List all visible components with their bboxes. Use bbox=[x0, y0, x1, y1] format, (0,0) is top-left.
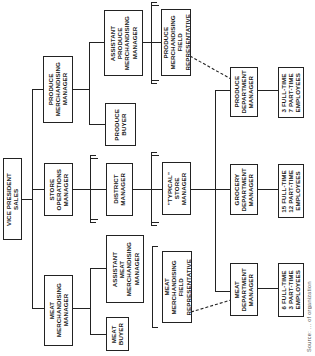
node-label: PRODUCE DEPARTMENT MANAGER bbox=[233, 70, 255, 114]
node-grocery-employees: 15 FULL-TIME 12 PART-TIME EMPLOYEES bbox=[278, 164, 304, 218]
node-meat-buyer: MEAT BUYER bbox=[106, 317, 129, 351]
node-typical-store-manager: "TYPICAL" STORE MANAGER bbox=[162, 162, 191, 215]
connector bbox=[191, 189, 230, 190]
node-meat-employees: 6 FULL-TIME 3 PART-TIME EMPLOYEES bbox=[278, 263, 304, 317]
connector bbox=[258, 288, 278, 289]
connector bbox=[89, 42, 104, 43]
node-label: 3 FULL-TIME 7 PART-TIME EMPLOYEES bbox=[280, 73, 302, 112]
connector bbox=[215, 291, 230, 292]
node-label: MEAT BUYER bbox=[110, 323, 124, 345]
connector bbox=[215, 90, 216, 292]
node-label: STORE OPERATIONS MANAGER bbox=[48, 169, 70, 210]
connector bbox=[73, 308, 90, 309]
node-label: PRODUCE BUYER bbox=[113, 109, 127, 141]
bracket bbox=[151, 152, 157, 226]
connector bbox=[90, 334, 106, 335]
connector bbox=[32, 308, 44, 309]
node-label: MEAT MERCHANDISING FIELD REPRESENTATIVE bbox=[163, 259, 192, 316]
node-produce-department-manager: PRODUCE DEPARTMENT MANAGER bbox=[230, 67, 258, 117]
node-district-manager: DISTRICT MANAGER bbox=[106, 163, 133, 216]
node-store-operations-manager: STORE OPERATIONS MANAGER bbox=[44, 163, 73, 216]
bracket bbox=[152, 246, 158, 328]
node-produce-merchandising-field-representative: PRODUCE MERCHANDISING FIELD REPRESENTATI… bbox=[161, 9, 191, 76]
connector bbox=[89, 124, 105, 125]
node-produce-merchandising-manager: PRODUCE MERCHANDISING MANAGER bbox=[43, 56, 73, 123]
node-label: PRODUCE MERCHANDISING MANAGER bbox=[47, 62, 69, 116]
node-label: ASSISTANT MEAT MERCHANDISING MANAGER bbox=[111, 242, 140, 296]
node-label: "TYPICAL" STORE MANAGER bbox=[166, 172, 188, 205]
node-label: GROCERY DEPARTMENT MANAGER bbox=[233, 168, 255, 212]
node-grocery-department-manager: GROCERY DEPARTMENT MANAGER bbox=[230, 164, 258, 215]
connector bbox=[215, 90, 230, 91]
node-meat-department-manager: MEAT DEPARTMENT MANAGER bbox=[230, 263, 258, 316]
node-produce-buyer: PRODUCE BUYER bbox=[105, 103, 136, 146]
org-chart: VICE PRESIDENT SALES PRODUCE MERCHANDISI… bbox=[0, 0, 315, 356]
connector bbox=[90, 268, 91, 335]
source-footnote: Source: ... of organization bbox=[306, 240, 312, 352]
connector bbox=[90, 268, 106, 269]
connector bbox=[133, 189, 162, 190]
node-label: ASSISTANT PRODUCE MERCHANDISING MANAGER bbox=[109, 16, 138, 70]
node-label: DISTRICT MANAGER bbox=[112, 173, 126, 206]
connector bbox=[258, 189, 278, 190]
bracket bbox=[151, 2, 157, 84]
connector bbox=[32, 89, 33, 309]
node-label: VICE PRESIDENT SALES bbox=[5, 173, 19, 226]
node-label: MEAT MERCHANDISING MANAGER bbox=[48, 283, 70, 337]
connector bbox=[258, 90, 278, 91]
node-vice-president-sales: VICE PRESIDENT SALES bbox=[3, 158, 22, 240]
node-meat-merchandising-field-representative: MEAT MERCHANDISING FIELD REPRESENTATIVE bbox=[162, 251, 192, 323]
connector bbox=[32, 189, 44, 190]
connector bbox=[89, 42, 90, 125]
connector bbox=[72, 89, 89, 90]
node-assistant-meat-merchandising-manager: ASSISTANT MEAT MERCHANDISING MANAGER bbox=[106, 235, 144, 303]
node-label: 15 FULL-TIME 12 PART-TIME EMPLOYEES bbox=[280, 170, 302, 213]
node-produce-employees: 3 FULL-TIME 7 PART-TIME EMPLOYEES bbox=[278, 67, 304, 118]
node-label: 6 FULL-TIME 3 PART-TIME EMPLOYEES bbox=[280, 270, 302, 309]
node-assistant-produce-merchandising-manager: ASSISTANT PRODUCE MERCHANDISING MANAGER bbox=[104, 10, 143, 76]
node-meat-merchandising-manager: MEAT MERCHANDISING MANAGER bbox=[44, 275, 73, 346]
bracket bbox=[90, 155, 96, 223]
node-label: MEAT DEPARTMENT MANAGER bbox=[233, 268, 255, 312]
node-label: PRODUCE MERCHANDISING FIELD REPRESENTATI… bbox=[162, 14, 191, 71]
